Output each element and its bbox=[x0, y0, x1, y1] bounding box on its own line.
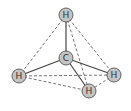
edge-h-left-h-bottom bbox=[19, 76, 89, 91]
carbon-atom: C bbox=[59, 51, 73, 65]
atom-label: H bbox=[63, 10, 70, 20]
hydrogen-atom-left: H bbox=[12, 69, 26, 83]
atom-label: H bbox=[86, 86, 93, 96]
hydrogen-atom-right: H bbox=[107, 68, 121, 82]
methane-diagram: HCHHH bbox=[0, 0, 131, 111]
atom-label: C bbox=[63, 53, 69, 63]
atoms: HCHHH bbox=[12, 8, 121, 98]
edge-h-left-h-right bbox=[19, 75, 114, 76]
atom-label: H bbox=[111, 70, 118, 80]
atom-label: H bbox=[16, 71, 23, 81]
hydrogen-atom-bottom: H bbox=[82, 84, 96, 98]
tetrahedron-svg: HCHHH bbox=[0, 0, 131, 111]
hydrogen-atom-top: H bbox=[59, 8, 73, 22]
